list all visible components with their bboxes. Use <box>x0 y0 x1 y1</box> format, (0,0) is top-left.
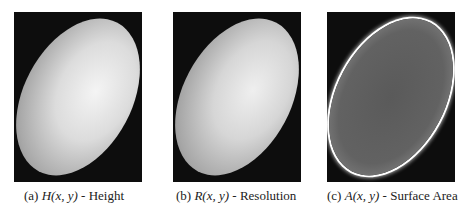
caption-a: (a) H(x, y) - Height <box>24 188 124 204</box>
surface-area-map-image <box>327 12 455 182</box>
caption-c: (c) A(x, y) - Surface Area <box>327 188 458 204</box>
ellipsoid-surface-area-render <box>327 12 455 182</box>
caption-label: (b) <box>176 188 191 203</box>
caption-math: R(x, y) <box>194 188 229 203</box>
height-map-image <box>14 12 142 182</box>
ellipsoid-resolution-render <box>173 12 301 182</box>
caption-label: (c) <box>327 188 341 203</box>
resolution-map-image <box>173 12 301 182</box>
caption-sep: - <box>379 188 390 203</box>
caption-sep: - <box>229 188 240 203</box>
caption-name: Resolution <box>240 188 296 203</box>
caption-b: (b) R(x, y) - Resolution <box>176 188 296 204</box>
caption-label: (a) <box>24 188 38 203</box>
caption-sep: - <box>78 188 89 203</box>
caption-math: A(x, y) <box>345 188 380 203</box>
caption-math: H(x, y) <box>42 188 78 203</box>
caption-name: Surface Area <box>390 188 458 203</box>
caption-name: Height <box>89 188 124 203</box>
ellipsoid-height-render <box>14 12 142 182</box>
